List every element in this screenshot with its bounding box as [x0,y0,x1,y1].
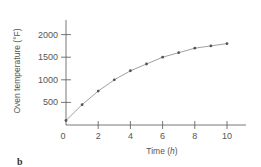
x-tick-label: 8 [192,131,197,141]
data-point-marker [145,63,148,66]
x-tick-label: 4 [128,131,133,141]
y-tick-label: 1500 [38,52,58,62]
data-point-marker [210,45,213,48]
data-point-marker [161,56,164,59]
y-axis-label: Oven temperature (°F) [12,28,22,113]
y-tick-label: 2000 [38,30,58,40]
data-series [65,42,229,122]
y-tick-label: 1000 [38,75,58,85]
x-tick-label: 10 [222,131,232,141]
series-line [66,44,227,121]
x-tick-label: 6 [160,131,165,141]
data-point-marker [113,78,116,81]
panel-label: b [17,156,23,167]
x-tick-label: 0 [60,131,65,141]
x-tick-label: 2 [96,131,101,141]
x-axis-label: Time (h) [146,146,178,156]
data-point-marker [193,47,196,50]
data-point-marker [97,90,100,93]
data-point-marker [129,69,132,72]
line-chart: 5001000150020000246810 Oven temperature … [0,0,261,167]
y-tick-label: 500 [43,97,58,107]
data-point-marker [226,42,229,45]
data-point-marker [65,119,68,122]
data-point-marker [81,103,84,106]
data-point-marker [177,51,180,54]
axes: 5001000150020000246810 [38,20,246,141]
